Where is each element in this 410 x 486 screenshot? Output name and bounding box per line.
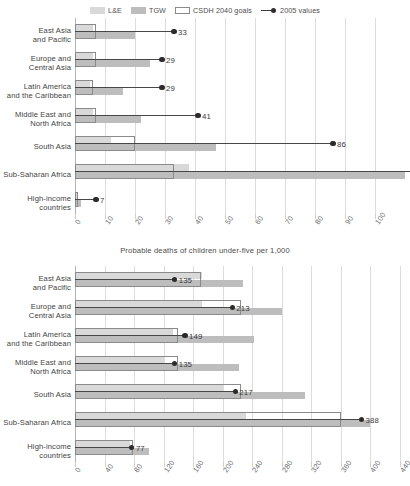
category-label: Latin America and the Caribbean: [7, 330, 71, 349]
legend-label-2005: 2005 values: [280, 6, 320, 15]
marker-dot-2005: [330, 141, 335, 146]
marker-line-2005: [75, 279, 175, 280]
gridline-440: [400, 266, 401, 462]
marker-value-label: 388: [366, 416, 379, 425]
category-label: Europe and Central Asia: [29, 54, 71, 73]
marker-dot-2005: [233, 389, 238, 394]
legend-label-le: L&E: [108, 6, 122, 15]
gridline-360: [341, 266, 342, 462]
marker-value-label: 149: [189, 332, 202, 341]
marker-value-label: 33: [178, 28, 187, 37]
marker-value-label: 29: [166, 56, 175, 65]
marker-line-2005: [75, 391, 235, 392]
marker-value-label: 135: [179, 360, 192, 369]
chart-panel-maternal-deaths: East Asia and PacificEurope and Central …: [0, 266, 410, 486]
category-label: East Asia and Pacific: [33, 26, 71, 45]
x-axis-title-top: Probable deaths of children under-five p…: [0, 246, 410, 255]
marker-dot-2005: [159, 85, 164, 90]
tick-label-0: 0: [73, 466, 83, 475]
marker-line-2005: [75, 59, 162, 60]
category-label: High-income countries: [27, 442, 71, 461]
gridline-400: [370, 266, 371, 462]
marker-dot-2005: [93, 197, 98, 202]
legend-swatch-csdh-icon: [175, 7, 190, 14]
marker-value-label: 41: [202, 112, 211, 121]
marker-line-2005: [75, 87, 162, 88]
category-label: High-income countries: [27, 194, 71, 213]
legend-label-csdh: CSDH 2040 goals: [193, 6, 252, 15]
legend-item-csdh: CSDH 2040 goals: [175, 6, 252, 15]
gridline-90: [345, 18, 346, 214]
tick-label-0: 0: [73, 218, 83, 227]
legend-label-tgw: TGW: [149, 6, 166, 15]
marker-line-2005: [75, 335, 185, 336]
marker-value-label: 29: [166, 84, 175, 93]
category-label: South Asia: [34, 390, 71, 399]
gridline-320: [311, 266, 312, 462]
gridline-240: [252, 266, 253, 462]
marker-line-2005: [75, 307, 232, 308]
marker-value-label: 217: [239, 388, 252, 397]
category-label: Middle East and North Africa: [15, 110, 71, 129]
marker-value-label: 77: [136, 444, 145, 453]
plot-area-bottom: 1352131491352173887704080120160200240280…: [75, 266, 400, 462]
category-label: South Asia: [34, 142, 71, 151]
legend-swatch-tgw-icon: [131, 7, 146, 14]
marker-line-2005: [75, 419, 362, 420]
gridline-280: [282, 266, 283, 462]
marker-line-2005: [75, 363, 175, 364]
marker-line-2005: [75, 31, 174, 32]
chart-legend: L&E TGW CSDH 2040 goals 2005 values: [0, 2, 410, 18]
legend-item-le: L&E: [90, 6, 122, 15]
marker-value-label: 86: [337, 140, 346, 149]
category-label: Middle East and North Africa: [15, 358, 71, 377]
gridline-60: [255, 18, 256, 214]
marker-line-2005: [75, 447, 132, 448]
legend-item-tgw: TGW: [131, 6, 166, 15]
gridline-70: [285, 18, 286, 214]
tick-label-80: 80: [132, 462, 144, 474]
marker-value-label: 135: [179, 276, 192, 285]
gridline-80: [315, 18, 316, 214]
legend-swatch-le-icon: [90, 7, 105, 14]
marker-line-2005: [75, 143, 333, 144]
category-label: Sub-Saharan Africa: [3, 418, 71, 427]
marker-line-2005: [75, 171, 410, 172]
marker-dot-2005: [171, 29, 176, 34]
marker-dot-2005: [159, 57, 164, 62]
gridline-100: [375, 18, 376, 214]
plot-area-top: 332929418614670102030405060708090100: [75, 18, 375, 214]
gridline-50: [225, 18, 226, 214]
marker-dot-2005: [195, 113, 200, 118]
marker-dot-2005: [230, 305, 235, 310]
marker-value-label: 213: [236, 304, 249, 313]
legend-line-dot-icon: [261, 7, 277, 14]
category-label: Sub-Saharan Africa: [3, 170, 71, 179]
legend-item-2005: 2005 values: [261, 6, 320, 15]
chart-panel-under-five-deaths: East Asia and PacificEurope and Central …: [0, 18, 410, 266]
category-label: Europe and Central Asia: [29, 302, 71, 321]
category-label: East Asia and Pacific: [33, 274, 71, 293]
marker-line-2005: [75, 115, 198, 116]
marker-dot-2005: [182, 333, 187, 338]
category-label: Latin America and the Caribbean: [7, 82, 71, 101]
marker-value-label: 7: [100, 196, 104, 205]
